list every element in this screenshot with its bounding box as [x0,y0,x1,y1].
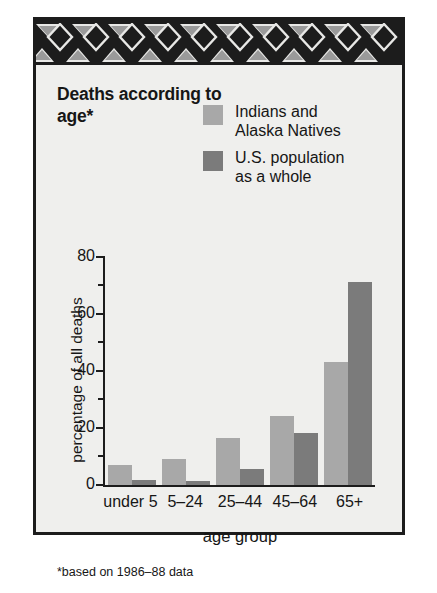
bar-45-64-series-a [270,416,294,485]
x-tick-label-5-24: 5–24 [158,493,213,511]
y-tick-label-60: 60 [35,304,95,322]
y-tick-label-20: 20 [35,418,95,436]
y-tick-60 [96,313,103,315]
y-minor-tick-10 [98,455,103,457]
x-axis-tick-labels: under 5 5–24 25–44 45–64 65+ [103,493,377,511]
x-tick-label-25-44: 25–44 [213,493,268,511]
chart-figure: Deaths according to age* Indians and Ala… [33,17,405,535]
legend-item-indians-alaska-natives: Indians and Alaska Natives [203,103,393,140]
y-tick-label-40: 40 [35,361,95,379]
x-tick-label-under-5: under 5 [103,493,158,511]
bar-under-5-series-a [108,465,132,485]
y-tick-40 [96,370,103,372]
legend-label-series-b: U.S. population as a whole [235,149,344,186]
bar-25-44-series-a [216,438,240,485]
legend-swatch-series-a [203,105,223,125]
footnote: *based on 1986–88 data [57,565,193,579]
southwestern-triangle-band-ornament [36,20,402,65]
y-minor-tick-30 [98,398,103,400]
y-tick-label-0: 0 [35,475,95,493]
ornament-svg [36,20,402,65]
x-axis-line [103,485,375,487]
bars-container [105,256,375,485]
bar-group-65-plus [321,256,375,485]
chart-body: Deaths according to age* Indians and Ala… [36,65,402,532]
y-tick-20 [96,427,103,429]
y-tick-80 [96,256,103,258]
bar-group-5-24 [159,256,213,485]
legend-item-us-population: U.S. population as a whole [203,149,393,186]
bar-under-5-series-b [132,480,156,485]
legend-swatch-series-b [203,151,223,171]
bar-group-45-64 [267,256,321,485]
bar-5-24-series-b [186,481,210,485]
y-minor-tick-70 [98,284,103,286]
plot-area: 80 60 40 20 0 percentage of all deaths [103,256,375,485]
bar-group-under-5 [105,256,159,485]
bar-65-plus-series-b [348,282,372,485]
x-tick-label-45-64: 45–64 [267,493,322,511]
y-tick-label-80: 80 [35,247,95,265]
y-tick-0 [96,484,103,486]
y-minor-tick-50 [98,341,103,343]
x-tick-label-65-plus: 65+ [322,493,377,511]
bar-5-24-series-a [162,459,186,485]
bar-65-plus-series-a [324,362,348,485]
legend: Indians and Alaska Natives U.S. populati… [203,103,393,195]
bar-45-64-series-b [294,433,318,485]
bar-group-25-44 [213,256,267,485]
legend-label-series-a: Indians and Alaska Natives [235,103,341,140]
x-axis-title: age group [103,527,377,546]
bar-25-44-series-b [240,469,264,485]
